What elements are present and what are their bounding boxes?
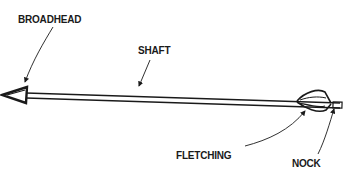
label-broadhead: BROADHEAD — [18, 14, 81, 25]
broadhead-leader — [25, 27, 53, 82]
fletching-leader — [245, 111, 305, 146]
shaft-leader — [139, 60, 150, 86]
label-nock: NOCK — [292, 158, 321, 169]
label-fletching: FLETCHING — [176, 150, 231, 161]
label-shaft: SHAFT — [138, 45, 170, 56]
shaft — [26, 93, 340, 108]
broadhead — [2, 87, 27, 103]
nock-leader — [318, 109, 334, 154]
